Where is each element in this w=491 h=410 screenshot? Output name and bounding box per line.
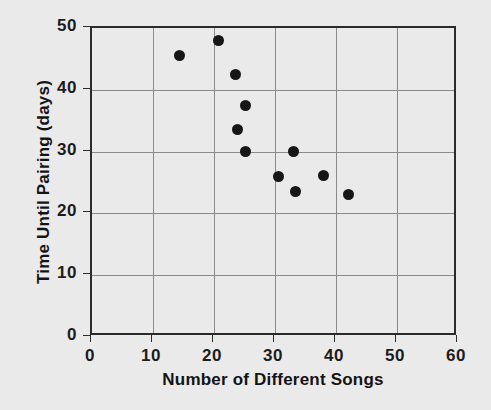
gridline-horizontal [92,152,454,153]
data-point [174,50,185,61]
tick-label-x: 20 [192,346,232,366]
data-point [232,124,243,135]
tick-label-y: 50 [37,16,77,36]
tick-mark-x [334,335,335,342]
tick-mark-y [83,150,90,151]
data-point [273,171,284,182]
tick-label-x: 10 [131,346,171,366]
gridline-vertical [214,28,215,333]
gridline-vertical [336,28,337,333]
gridline-vertical [397,28,398,333]
gridline-vertical [153,28,154,333]
data-point [240,100,251,111]
tick-mark-x [456,335,457,342]
tick-label-x: 40 [314,346,354,366]
tick-label-x: 30 [253,346,293,366]
tick-mark-x [90,335,91,342]
gridline-horizontal [92,213,454,214]
tick-label-y: 0 [37,325,77,345]
tick-mark-x [273,335,274,342]
plot-area [90,26,456,335]
data-point [343,189,354,200]
tick-mark-x [395,335,396,342]
data-point [318,170,329,181]
gridline-horizontal [92,90,454,91]
data-point [240,146,251,157]
data-point [213,35,224,46]
tick-mark-x [212,335,213,342]
tick-mark-x [151,335,152,342]
tick-mark-y [83,26,90,27]
tick-mark-y [83,211,90,212]
scatter-plot-figure: 0102030405060 01020304050 Number of Diff… [0,0,491,410]
data-point [230,69,241,80]
tick-mark-y [83,273,90,274]
data-point [290,186,301,197]
gridline-horizontal [92,275,454,276]
x-axis-title: Number of Different Songs [90,370,456,390]
tick-mark-y [83,335,90,336]
tick-label-x: 0 [70,346,110,366]
data-point [288,146,299,157]
tick-label-x: 60 [436,346,476,366]
tick-label-x: 50 [375,346,415,366]
tick-mark-y [83,88,90,89]
y-axis-title: Time Until Pairing (days) [34,42,54,322]
